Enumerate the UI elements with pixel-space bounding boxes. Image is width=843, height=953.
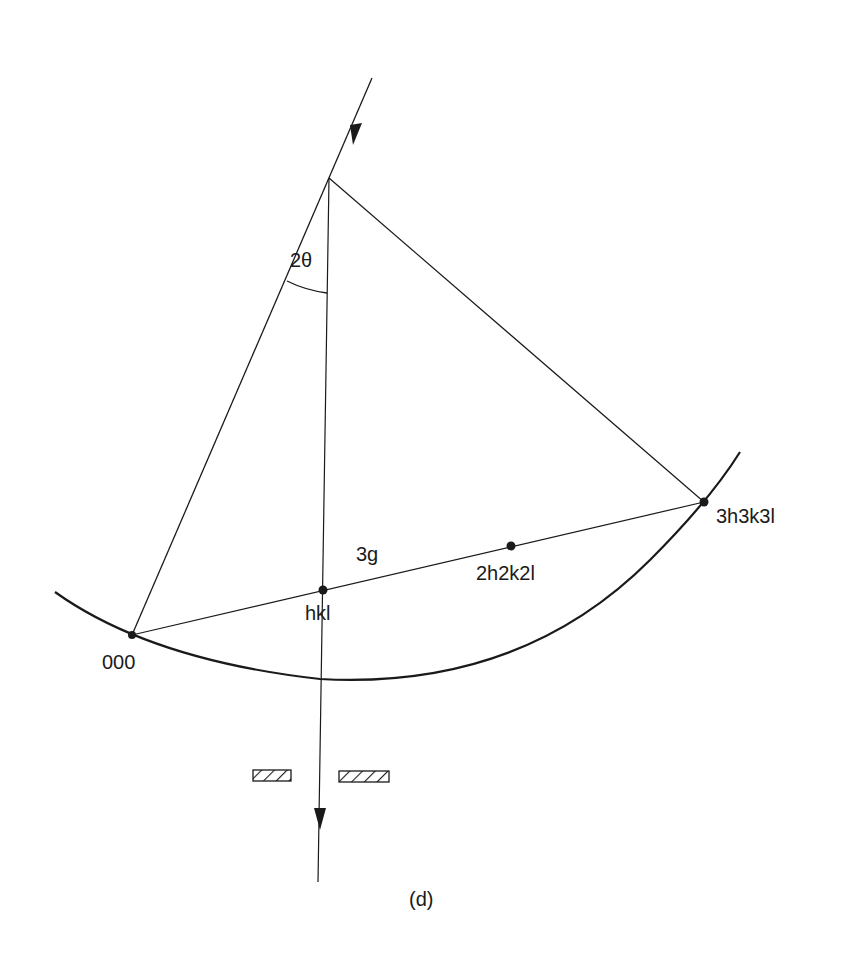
transmitted-beam [318,178,329,882]
vector-label: 3g [356,543,378,565]
aperture-left-slit [253,770,291,781]
point-000 [128,631,136,639]
origin-label: 000 [102,651,135,673]
incident-arrow-icon [350,123,362,145]
reciprocal-row-line [132,502,704,635]
diffracted-ray-3h3k3l [329,178,704,502]
angle-arc [287,281,327,293]
2h2k2l-label: 2h2k2l [476,562,535,584]
aperture [253,770,389,782]
point-3h3k3l [700,498,709,507]
point-2h2k2l [507,542,516,551]
3h3k3l-label: 3h3k3l [716,505,775,527]
incident-beam [132,78,372,635]
ewald-sphere-arc [55,452,740,680]
figure-caption: (d) [409,888,433,910]
transmitted-arrow-icon [314,808,326,830]
hkl-label: hkl [305,602,331,624]
ewald-sphere-diagram: 2θ 3g 000 hkl 2h2k2l 3h3k3l (d) [0,0,843,953]
point-hkl [319,586,328,595]
aperture-right-slit [339,771,389,782]
angle-label: 2θ [290,249,312,271]
